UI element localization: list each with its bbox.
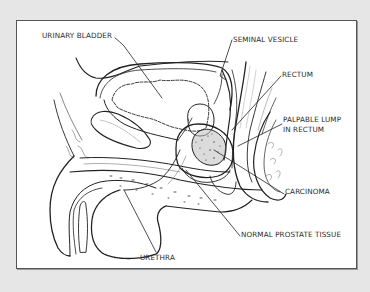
label-urinary-bladder: URINARY BLADDER <box>42 31 112 41</box>
leader-palpable-lump <box>238 124 282 146</box>
leader-urinary-bladder <box>115 38 162 98</box>
label-palpable-lump: PALPABLE LUMP IN RECTUM <box>283 115 341 134</box>
leader-normal-prostate <box>186 170 240 236</box>
label-rectum: RECTUM <box>282 70 313 80</box>
label-seminal-vesicle: SEMINAL VESICLE <box>233 35 298 45</box>
anatomy-illustration <box>0 0 370 292</box>
label-urethra: URETHRA <box>140 253 175 263</box>
figure-stage: URINARY BLADDER SEMINAL VESICLE RECTUM P… <box>0 0 370 292</box>
label-normal-prostate-tissue: NORMAL PROSTATE TISSUE <box>241 230 341 240</box>
label-palpable-lump-line1: PALPABLE LUMP <box>283 115 341 125</box>
label-palpable-lump-line2: IN RECTUM <box>283 125 341 135</box>
label-carcinoma: CARCINOMA <box>285 187 330 197</box>
leader-urethra <box>124 190 156 252</box>
